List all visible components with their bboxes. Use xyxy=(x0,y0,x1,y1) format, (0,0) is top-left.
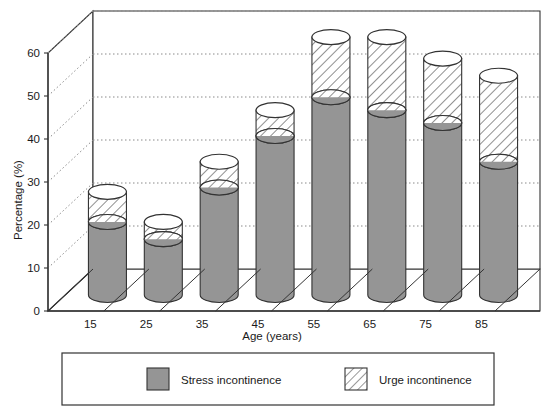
bar-top-cap xyxy=(200,154,238,169)
left-wall xyxy=(48,11,93,311)
bar-75 xyxy=(424,51,462,303)
bar-top-cap xyxy=(480,68,518,83)
y-tick-label: 60 xyxy=(27,47,40,59)
y-axis-title: Percentage (%) xyxy=(12,160,24,240)
bar-65 xyxy=(368,30,406,303)
legend-label-urge: Urge incontinence xyxy=(379,374,472,386)
x-tick-label: 55 xyxy=(307,318,320,330)
y-tick-label: 10 xyxy=(27,262,40,274)
y-tick-label: 50 xyxy=(27,90,40,102)
bar-55 xyxy=(312,30,350,303)
x-tick-label: 25 xyxy=(140,318,153,330)
legend-swatch-urge xyxy=(345,368,367,390)
bar-top-cap xyxy=(88,184,126,199)
bar-segment-stress xyxy=(424,123,462,303)
legend: Stress incontinence Urge incontinence xyxy=(62,353,494,405)
x-tick-label: 15 xyxy=(84,318,97,330)
x-tick-label: 45 xyxy=(252,318,265,330)
bar-segment-stress xyxy=(88,222,126,303)
bar-top-cap xyxy=(368,30,406,45)
bar-segment-stress xyxy=(144,239,182,302)
bar-35 xyxy=(200,154,238,302)
x-tick-label: 85 xyxy=(475,318,488,330)
bar-segment-stress xyxy=(200,188,238,303)
x-tick-label: 35 xyxy=(196,318,209,330)
x-axis-title: Age (years) xyxy=(242,330,302,342)
legend-swatch-stress xyxy=(147,368,169,390)
bar-segment-stress xyxy=(256,136,294,303)
bar-45 xyxy=(256,103,294,303)
x-tick-label: 65 xyxy=(363,318,376,330)
x-tick-label: 75 xyxy=(419,318,432,330)
y-axis: 0102030405060 xyxy=(27,47,48,317)
y-tick-label: 20 xyxy=(27,219,40,231)
incontinence-prevalence-chart: 0102030405060 1525354555657585 Percentag… xyxy=(0,0,556,417)
bar-top-cap xyxy=(256,103,294,118)
y-tick-label: 40 xyxy=(27,133,40,145)
bar-top-cap xyxy=(312,30,350,45)
bar-top-cap xyxy=(424,51,462,66)
bar-85 xyxy=(480,68,518,302)
bar-15 xyxy=(88,184,126,302)
y-tick-label: 30 xyxy=(27,176,40,188)
bar-segment-stress xyxy=(312,97,350,302)
bar-segment-stress xyxy=(480,162,518,303)
bar-25 xyxy=(144,214,182,302)
bar-top-cap xyxy=(144,214,182,229)
bar-segment-stress xyxy=(368,110,406,302)
y-tick-label: 0 xyxy=(34,305,40,317)
legend-label-stress: Stress incontinence xyxy=(181,374,281,386)
chart-container: 0102030405060 1525354555657585 Percentag… xyxy=(0,0,556,417)
